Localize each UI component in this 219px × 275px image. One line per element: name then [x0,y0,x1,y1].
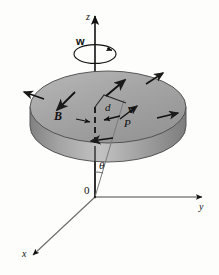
origin-marker [94,196,96,198]
point-P-label: P [124,118,131,129]
origin-label: 0 [84,185,90,196]
magnetic-field-label: B [54,110,62,122]
distance-label: d [105,102,111,113]
angle-theta-label: θ [99,160,104,171]
y-axis-label: y [199,202,203,212]
z-axis-label: z [86,12,90,22]
x-axis [33,197,95,255]
figure-canvas: z w B d v P θ 0 y x [0,0,219,275]
diagram-svg [0,0,219,275]
x-axis-label: x [22,249,26,259]
angle-theta-arc [95,172,103,173]
angular-velocity-label: w [76,36,85,47]
velocity-label: v [128,104,134,115]
